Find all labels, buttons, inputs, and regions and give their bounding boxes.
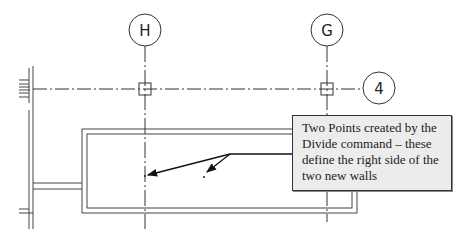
callout-text: Two Points created by the Divide command… <box>302 120 439 183</box>
divide-point-1 <box>144 175 146 177</box>
divide-point-2 <box>203 176 205 178</box>
grid-label-g: G <box>321 22 333 40</box>
callout-note: Two Points created by the Divide command… <box>292 115 452 191</box>
grid-label-h: H <box>139 22 150 40</box>
left-wall <box>19 66 82 229</box>
grid-label-4: 4 <box>374 80 384 98</box>
leader-arrows <box>148 154 292 175</box>
